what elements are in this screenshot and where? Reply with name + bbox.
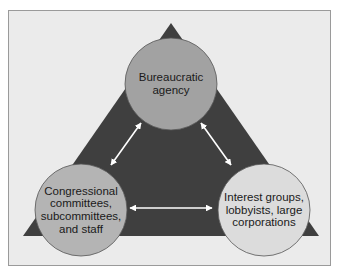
label-bureaucratic-agency: Bureaucratic agency — [125, 66, 217, 102]
label-interest-groups: Interest groups, lobbyists, large corpor… — [218, 190, 310, 230]
label-congressional-committees: Congressional committees, subcommittees,… — [33, 184, 129, 236]
